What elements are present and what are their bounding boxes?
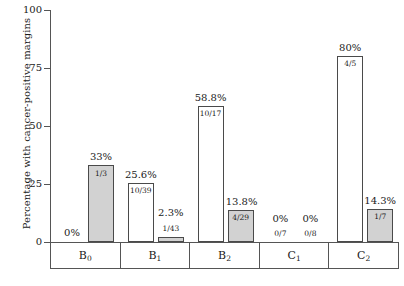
bar-b1-filled <box>158 237 184 242</box>
bar-frac-b1-hollow: 10/39 <box>127 187 155 195</box>
bar-frac-b2-filled: 4/29 <box>228 214 254 222</box>
y-tick-label-100: 100 <box>2 5 42 15</box>
bars-layer: 0% 33% 1/3 25.6% 10/39 2.3% 1/43 58.8% 1… <box>50 10 399 242</box>
y-tick-label-50: 50 <box>2 121 42 131</box>
bar-b2-hollow <box>198 106 224 242</box>
bar-group-c1: 0% 0/7 0% 0/8 <box>259 10 329 242</box>
bar-label-b2-hollow-pct: 58.8% <box>181 93 241 103</box>
bar-frac-c1-filled: 0/8 <box>296 230 324 238</box>
bar-frac-c1-hollow: 0/7 <box>266 230 294 238</box>
x-group-label-c1: C1 <box>287 249 300 262</box>
bar-group-c2: 80% 4/5 14.3% 1/7 <box>329 10 399 242</box>
x-group-cell-c2: C2 <box>329 243 398 268</box>
x-group-label-b1: B1 <box>148 249 161 262</box>
bar-group-b2: 58.8% 10/17 13.8% 4/29 <box>190 10 260 242</box>
bar-label-c2-filled-pct: 14.3% <box>352 196 404 206</box>
bar-c2-hollow <box>337 56 363 242</box>
y-tick-label-25: 25 <box>2 179 42 189</box>
bar-label-c1-filled-pct: 0% <box>285 214 335 224</box>
x-group-label-c2: C2 <box>357 249 370 262</box>
bar-label-b1-filled-pct: 2.3% <box>146 208 196 218</box>
bar-frac-c2-filled: 1/7 <box>367 213 393 221</box>
bar-label-b0-filled-pct: 33% <box>76 152 126 162</box>
x-group-label-b2: B2 <box>218 249 231 262</box>
x-group-cell-b2: B2 <box>190 243 260 268</box>
x-group-cell-b0: B0 <box>51 243 121 268</box>
bar-chart: Percentage with cancer-positive margins … <box>0 0 404 286</box>
x-group-cell-b1: B1 <box>121 243 191 268</box>
x-group-label-b0: B0 <box>79 249 92 262</box>
y-tick-label-0: 0 <box>2 237 42 247</box>
bar-label-c2-hollow-pct: 80% <box>324 43 376 53</box>
y-tick-label-75: 75 <box>2 63 42 73</box>
bar-label-b1-hollow-pct: 25.6% <box>111 170 171 180</box>
bar-frac-c2-hollow: 4/5 <box>336 60 364 68</box>
bar-group-b0: 0% 33% 1/3 <box>50 10 120 242</box>
x-group-cell-c1: C1 <box>260 243 330 268</box>
x-axis-group-band: B0 B1 B2 C1 C2 <box>50 243 399 269</box>
bar-frac-b1-filled: 1/43 <box>157 225 185 233</box>
bar-group-b1: 25.6% 10/39 2.3% 1/43 <box>120 10 190 242</box>
bar-frac-b2-hollow: 10/17 <box>197 110 225 118</box>
